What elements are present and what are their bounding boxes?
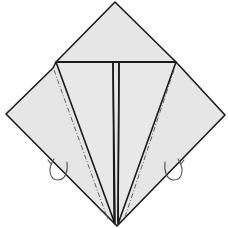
- origami-diagram: [0, 0, 228, 228]
- square-base-outline: [6, 2, 225, 226]
